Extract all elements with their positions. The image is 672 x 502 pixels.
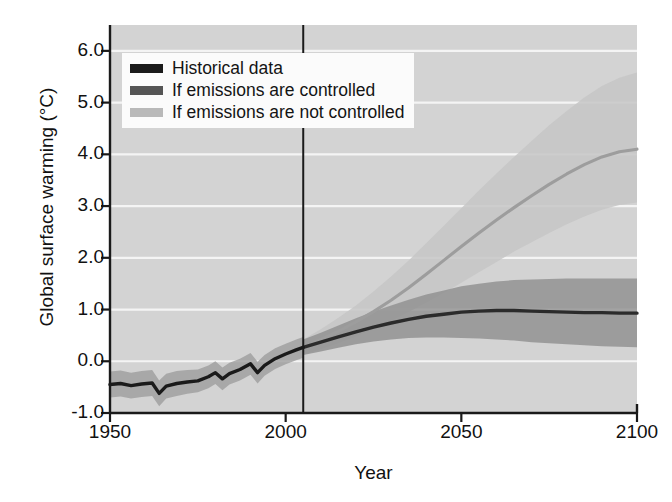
climate-projection-chart: Global surface warming (°C) Year -1.00.0… — [0, 0, 672, 502]
y-axis-tick-label: 4.0 — [48, 143, 104, 162]
x-axis-tick-label: 2000 — [246, 421, 326, 443]
x-axis-title: Year — [110, 462, 637, 484]
y-axis-tick-label: 0.0 — [48, 350, 104, 369]
y-axis-tick-label: -1.0 — [48, 402, 104, 421]
legend-item-label: If emissions are controlled — [172, 80, 375, 101]
y-axis-tick-label: 1.0 — [48, 299, 104, 318]
chart-legend: Historical dataIf emissions are controll… — [122, 53, 414, 128]
legend-item-label: Historical data — [172, 58, 283, 79]
legend-swatch-icon — [130, 64, 163, 73]
x-axis-tick-label: 2100 — [597, 421, 672, 443]
y-axis-tick-label: 2.0 — [48, 247, 104, 266]
x-axis-tick-label: 2050 — [421, 421, 501, 443]
y-axis-tick-label: 6.0 — [48, 40, 104, 59]
legend-swatch-icon — [130, 86, 163, 95]
legend-item-label: If emissions are not controlled — [172, 102, 404, 123]
legend-item: If emissions are not controlled — [130, 101, 404, 123]
y-axis-tick-label: 5.0 — [48, 92, 104, 111]
x-axis-tick-label: 1950 — [70, 421, 150, 443]
legend-item: Historical data — [130, 57, 404, 79]
legend-item: If emissions are controlled — [130, 79, 404, 101]
y-axis-tick-label: 3.0 — [48, 195, 104, 214]
legend-swatch-icon — [130, 108, 163, 117]
